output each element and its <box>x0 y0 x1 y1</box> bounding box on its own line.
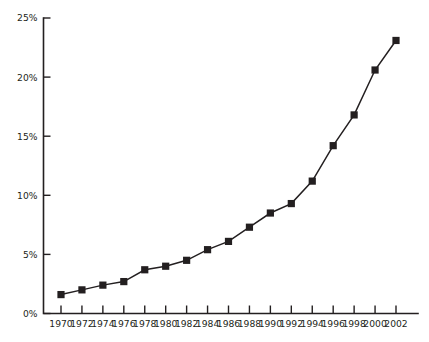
data-point-marker <box>330 142 337 149</box>
x-tick-label: 1972 <box>70 318 93 329</box>
y-tick-label: 25% <box>17 12 38 23</box>
data-point-marker <box>267 209 274 216</box>
data-point-marker <box>351 111 358 118</box>
x-tick-label: 2002 <box>384 318 407 329</box>
data-point-marker <box>288 200 295 207</box>
y-tick-label: 10% <box>17 190 38 201</box>
x-tick-label: 1992 <box>280 318 303 329</box>
series-markers <box>57 37 399 298</box>
data-point-marker <box>392 37 399 44</box>
y-tick-label: 15% <box>17 131 38 142</box>
series-line-path <box>61 40 396 294</box>
y-tick-label: 0% <box>23 308 38 319</box>
data-point-marker <box>78 286 85 293</box>
data-point-marker <box>162 263 169 270</box>
y-tick-label: 5% <box>23 249 38 260</box>
data-point-marker <box>246 224 253 231</box>
data-point-marker <box>309 178 316 185</box>
data-point-marker <box>99 282 106 289</box>
data-point-marker <box>141 266 148 273</box>
chart-canvas: 0%5%10%15%20%25% 19701972197419761978198… <box>0 0 429 342</box>
data-point-marker <box>120 278 127 285</box>
x-tick-label: 1982 <box>175 318 198 329</box>
data-point-marker <box>225 238 232 245</box>
x-axis-tick-marks <box>61 306 396 314</box>
line-chart: 0%5%10%15%20%25% 19701972197419761978198… <box>0 0 429 342</box>
data-point-marker <box>57 291 64 298</box>
axis-spines <box>44 18 419 314</box>
y-axis-tick-labels: 0%5%10%15%20%25% <box>17 12 38 319</box>
data-point-marker <box>204 246 211 253</box>
data-point-marker <box>183 257 190 264</box>
y-axis-tick-marks <box>44 18 51 314</box>
y-tick-label: 20% <box>17 72 38 83</box>
x-axis-tick-labels: 1970197219741976197819801982198419861988… <box>49 318 407 329</box>
data-point-marker <box>371 66 378 73</box>
